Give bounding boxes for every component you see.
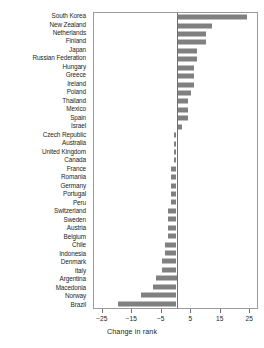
x-axis-tick-labels: −25−15−551525 <box>0 314 264 326</box>
category-label: Greece <box>0 71 89 79</box>
bar-row <box>94 299 257 307</box>
bar-row <box>94 156 257 164</box>
bar-row <box>94 257 257 265</box>
bar <box>177 74 195 79</box>
bar-series <box>94 13 257 308</box>
x-axis-title: Change in rank <box>0 327 264 336</box>
category-label: Macedonia <box>0 284 89 292</box>
bar-row <box>94 207 257 215</box>
bar-row <box>94 30 257 38</box>
category-label: Argentina <box>0 275 89 283</box>
bar <box>177 15 248 20</box>
x-tick-label: 15 <box>216 314 223 324</box>
category-label: Brazil <box>0 300 89 308</box>
x-tick-label: 5 <box>188 314 192 324</box>
category-label: Finland <box>0 37 89 45</box>
bar <box>156 276 177 281</box>
bar-row <box>94 97 257 105</box>
bar <box>177 65 195 70</box>
bar-row <box>94 291 257 299</box>
bar-row <box>94 266 257 274</box>
zero-reference-line <box>177 13 178 308</box>
x-tick <box>220 309 221 313</box>
bar-row <box>94 274 257 282</box>
bar-row <box>94 114 257 122</box>
x-tick <box>131 309 132 313</box>
category-label: United Kingdom <box>0 148 89 156</box>
plot-area <box>93 12 258 309</box>
category-label: New Zealand <box>0 20 89 28</box>
category-label: Ireland <box>0 80 89 88</box>
bar-row <box>94 181 257 189</box>
category-axis-labels: South KoreaNew ZealandNetherlandsFinland… <box>0 12 89 309</box>
category-label: Australia <box>0 139 89 147</box>
bar-row <box>94 215 257 223</box>
category-label: Germany <box>0 182 89 190</box>
category-label: Austria <box>0 224 89 232</box>
bar-row <box>94 106 257 114</box>
bar <box>168 225 177 230</box>
bar-row <box>94 190 257 198</box>
bar <box>177 48 198 53</box>
category-label: Denmark <box>0 258 89 266</box>
bar <box>162 267 177 272</box>
bar-row <box>94 38 257 46</box>
bar-row <box>94 165 257 173</box>
bar-row <box>94 131 257 139</box>
x-tick-label: −5 <box>157 314 165 324</box>
bar-row <box>94 240 257 248</box>
bar <box>118 301 177 306</box>
bar <box>177 40 206 45</box>
bar-row <box>94 55 257 63</box>
bar-row <box>94 47 257 55</box>
bar <box>141 293 176 298</box>
bar-row <box>94 173 257 181</box>
bar-row <box>94 148 257 156</box>
category-label: Hungary <box>0 63 89 71</box>
bar-row <box>94 224 257 232</box>
bar <box>177 116 189 121</box>
bar-row <box>94 283 257 291</box>
bar-row <box>94 13 257 21</box>
bar <box>165 242 177 247</box>
bar-chart: South KoreaNew ZealandNetherlandsFinland… <box>0 0 264 348</box>
category-label: Portugal <box>0 190 89 198</box>
bar <box>177 57 198 62</box>
category-label: Italy <box>0 267 89 275</box>
bar-row <box>94 89 257 97</box>
x-tick-label: −15 <box>126 314 137 324</box>
category-label: Czech Republic <box>0 131 89 139</box>
bar-row <box>94 80 257 88</box>
category-label: Norway <box>0 292 89 300</box>
bar-row <box>94 64 257 72</box>
category-label: Romania <box>0 173 89 181</box>
category-label: Russian Federation <box>0 54 89 62</box>
bar <box>168 208 177 213</box>
bar <box>168 234 177 239</box>
bar-row <box>94 122 257 130</box>
bar <box>177 99 189 104</box>
category-label: Japan <box>0 46 89 54</box>
bar <box>177 107 189 112</box>
bar <box>165 251 177 256</box>
category-label: Thailand <box>0 97 89 105</box>
category-label: Netherlands <box>0 29 89 37</box>
x-tick-label: 25 <box>245 314 252 324</box>
category-label: Switzerland <box>0 207 89 215</box>
bar <box>177 82 195 87</box>
x-tick-label: −25 <box>96 314 107 324</box>
bar-row <box>94 198 257 206</box>
category-label: Israel <box>0 122 89 130</box>
category-label: Peru <box>0 199 89 207</box>
bar-row <box>94 232 257 240</box>
category-label: Indonesia <box>0 250 89 258</box>
bar-row <box>94 21 257 29</box>
bar-row <box>94 72 257 80</box>
bar-row <box>94 139 257 147</box>
x-tick <box>190 309 191 313</box>
category-label: Sweden <box>0 216 89 224</box>
bar <box>162 259 177 264</box>
x-tick <box>249 309 250 313</box>
category-label: Spain <box>0 114 89 122</box>
bar-row <box>94 249 257 257</box>
